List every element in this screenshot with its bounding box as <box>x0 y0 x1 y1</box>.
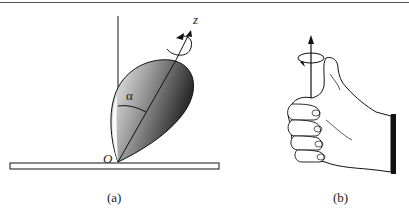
spinning-top-body <box>111 60 194 162</box>
horizontal-plate <box>10 163 219 169</box>
origin-o-label: O <box>103 151 112 167</box>
finger-2 <box>288 120 320 136</box>
finger-3 <box>291 136 322 150</box>
z-axis-label: z <box>193 12 198 28</box>
figure-canvas <box>0 0 409 215</box>
up-arrow-icon <box>308 35 314 44</box>
finger-1 <box>288 104 320 120</box>
panel-a-diagram <box>10 16 219 169</box>
caption-a: (a) <box>107 190 121 206</box>
panel-b-diagram <box>288 35 396 174</box>
sleeve-cuff <box>391 114 396 174</box>
angle-alpha-label: α <box>126 88 133 104</box>
caption-b: (b) <box>333 190 348 206</box>
